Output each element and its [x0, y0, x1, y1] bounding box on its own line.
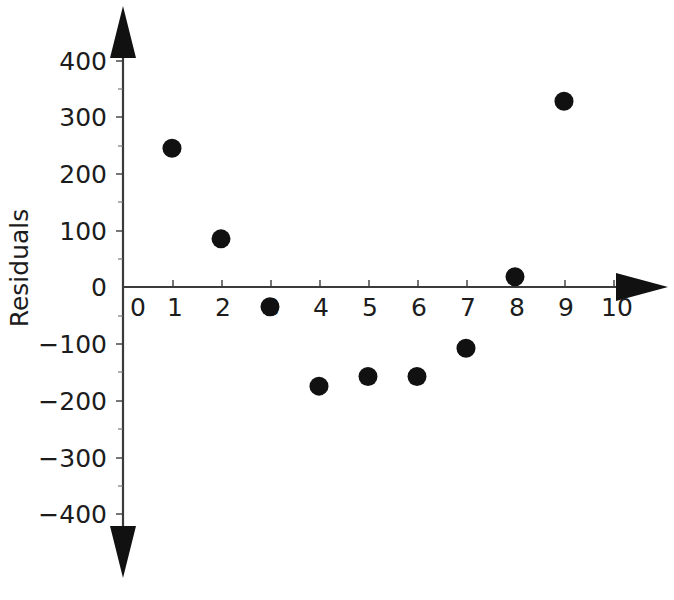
x-tick-label-9: 9	[558, 293, 574, 322]
x-tick-label-4: 4	[313, 293, 329, 322]
residual-plot-figure: 400 300 200 100 0 −100 −200 −300 −400 0 …	[0, 0, 674, 600]
data-point	[408, 367, 427, 386]
data-point	[506, 267, 525, 286]
x-tick-label-1: 1	[167, 293, 183, 322]
y-tick-label-minus400: −400	[38, 500, 107, 529]
x-tick-label-10: 10	[601, 293, 633, 322]
y-tick-label-200: 200	[59, 160, 107, 189]
data-point	[261, 297, 280, 316]
y-tick-label-400: 400	[59, 47, 107, 76]
data-point	[163, 139, 182, 158]
data-point	[457, 339, 476, 358]
x-tick-label-7: 7	[460, 293, 476, 322]
x-tick-label-5: 5	[362, 293, 378, 322]
data-point	[555, 92, 574, 111]
data-point	[359, 367, 378, 386]
y-tick-label-0: 0	[91, 273, 107, 302]
x-tick-label-6: 6	[411, 293, 427, 322]
y-tick-label-minus200: −200	[38, 387, 107, 416]
y-tick-label-100: 100	[59, 217, 107, 246]
data-point	[212, 229, 231, 248]
y-axis-title: Residuals	[5, 209, 34, 328]
y-axis-down-arrow-icon	[110, 526, 136, 578]
y-tick-label-minus300: −300	[38, 444, 107, 473]
data-point-series	[163, 92, 574, 396]
scatter-plot-canvas: 400 300 200 100 0 −100 −200 −300 −400 0 …	[0, 0, 674, 600]
y-tick-label-minus100: −100	[38, 330, 107, 359]
y-tick-label-300: 300	[59, 103, 107, 132]
x-tick-label-8: 8	[509, 293, 525, 322]
y-axis-up-arrow-icon	[110, 6, 136, 58]
data-point	[310, 377, 329, 396]
x-tick-label-0: 0	[130, 293, 146, 322]
x-tick-label-2: 2	[215, 293, 231, 322]
